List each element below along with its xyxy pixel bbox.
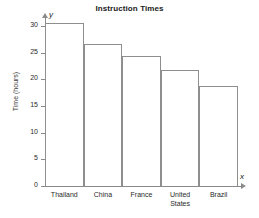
x-axis-tick-label-line: Thailand <box>45 190 84 199</box>
bar <box>161 70 200 186</box>
y-axis-tick-label: 20 <box>12 74 38 81</box>
bar <box>84 44 123 186</box>
bar <box>122 56 161 186</box>
y-axis-tick-label: 25 <box>12 48 38 55</box>
x-axis-tick-label: China <box>84 190 123 199</box>
y-axis-tick-label-wrap: 0 <box>10 181 38 191</box>
y-axis-arrow-icon <box>42 13 48 18</box>
x-axis-tick-label-line: China <box>84 190 123 199</box>
x-axis-line <box>45 186 241 187</box>
bar <box>45 23 84 186</box>
y-axis-tick-label: 0 <box>12 181 38 188</box>
x-axis-tick-label-line: Brazil <box>199 190 238 199</box>
y-axis-tick-label: 15 <box>12 101 38 108</box>
x-axis-arrow-icon <box>241 183 246 189</box>
y-axis-tick-label-wrap: 30 <box>10 21 38 31</box>
bar <box>199 86 238 186</box>
x-axis-tick-label: Brazil <box>199 190 238 199</box>
y-axis-tick-label: 30 <box>12 21 38 28</box>
y-axis-tick-label: 10 <box>12 128 38 135</box>
x-axis-tick-label-line: France <box>122 190 161 199</box>
y-axis-tick-label-wrap: 5 <box>10 154 38 164</box>
x-axis-tick-label: France <box>122 190 161 199</box>
bar-chart: Instruction Times Time (hours) y x 05101… <box>0 0 259 218</box>
y-axis-variable-label: y <box>49 10 53 19</box>
y-axis-tick-label: 5 <box>12 154 38 161</box>
chart-title: Instruction Times <box>0 4 259 13</box>
y-axis-tick-label-wrap: 15 <box>10 101 38 111</box>
y-axis-tick <box>41 186 46 187</box>
x-axis-tick-label: UnitedStates <box>161 190 200 208</box>
x-axis-tick-label: Thailand <box>45 190 84 199</box>
y-axis-tick-label-wrap: 10 <box>10 128 38 138</box>
x-axis-variable-label: x <box>240 172 244 181</box>
y-axis-tick-label-wrap: 25 <box>10 48 38 58</box>
x-axis-tick-label-line: United <box>161 190 200 199</box>
y-axis-tick-label-wrap: 20 <box>10 74 38 84</box>
x-axis-tick-label-line: States <box>161 199 200 208</box>
